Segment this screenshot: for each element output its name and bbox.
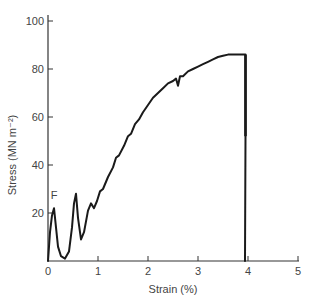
x-tick-label: 1 <box>95 265 101 277</box>
y-axis-title: Stress (MN m⁻²) <box>6 115 18 196</box>
ticks: 01234520406080100 <box>26 15 301 277</box>
stress-strain-chart: 01234520406080100 Strain (%) Stress (MN … <box>0 0 310 301</box>
data-series <box>48 55 246 261</box>
y-tick-label: 80 <box>32 63 44 75</box>
annotation-label: F <box>51 189 58 201</box>
x-axis-title: Strain (%) <box>149 283 198 295</box>
x-tick-label: 5 <box>295 265 301 277</box>
y-tick-label: 100 <box>26 15 44 27</box>
x-tick-label: 2 <box>145 265 151 277</box>
x-tick-label: 0 <box>45 265 51 277</box>
y-tick-label: 20 <box>32 207 44 219</box>
y-tick-label: 60 <box>32 111 44 123</box>
stress-strain-curve <box>48 55 246 261</box>
y-tick-label: 40 <box>32 159 44 171</box>
x-tick-label: 3 <box>195 265 201 277</box>
annotations: F <box>51 189 58 201</box>
x-tick-label: 4 <box>245 265 251 277</box>
